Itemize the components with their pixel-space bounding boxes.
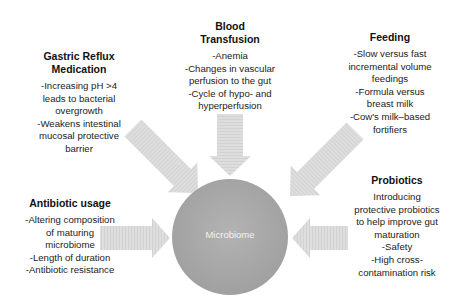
microbiome-label: Microbiome bbox=[172, 229, 288, 240]
factor-title: Feeding bbox=[330, 31, 450, 44]
factor-title: Gastric Reflux Medication bbox=[14, 50, 144, 76]
arrow-blood-transfusion bbox=[209, 114, 251, 176]
factor-title: Antibiotic usage bbox=[8, 197, 132, 210]
factor-title: Probiotics bbox=[340, 174, 454, 187]
factor-feeding: Feeding -Slow versus fast incremental vo… bbox=[330, 31, 450, 136]
factor-title: Blood Transfusion bbox=[168, 20, 292, 46]
factor-blood-transfusion: Blood Transfusion -Anemia -Changes in va… bbox=[168, 20, 292, 113]
factor-probiotics: Probiotics Introducing protective probio… bbox=[340, 174, 454, 279]
factor-gastric-reflux: Gastric Reflux Medication -Increasing pH… bbox=[14, 50, 144, 156]
factor-antibiotic-usage: Antibiotic usage -Altering composition o… bbox=[8, 197, 132, 277]
